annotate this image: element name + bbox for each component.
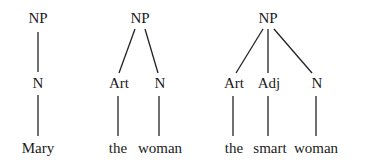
edge-np-art (119, 29, 135, 73)
word-the: the (225, 140, 244, 156)
node-np: NP (28, 10, 47, 26)
tree-np-the-smart-woman: NP Art Adj N the smart woman (224, 10, 339, 156)
node-n: N (312, 75, 323, 91)
node-np: NP (130, 10, 149, 26)
syntax-tree-diagram: NP N Mary NP Art N the woman NP Art Adj … (0, 0, 368, 165)
node-art: Art (109, 75, 130, 91)
node-np: NP (258, 10, 277, 26)
node-art: Art (224, 75, 245, 91)
node-n: N (33, 75, 44, 91)
node-adj: Adj (258, 75, 281, 91)
node-n: N (155, 75, 166, 91)
edge-np-n (145, 29, 158, 73)
edge-np-art (236, 29, 263, 73)
tree-np-mary: NP N Mary (22, 10, 55, 156)
word-the: the (109, 140, 128, 156)
word-woman: woman (294, 140, 339, 156)
word-mary: Mary (22, 140, 55, 156)
word-woman: woman (138, 140, 183, 156)
edge-np-n (274, 29, 312, 73)
word-smart: smart (253, 140, 287, 156)
tree-np-the-woman: NP Art N the woman (109, 10, 183, 156)
